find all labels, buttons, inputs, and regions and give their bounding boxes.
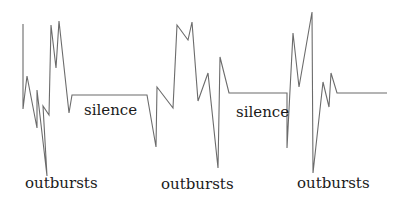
waveform-line [23, 12, 387, 176]
silence-label-1: silence [84, 101, 137, 119]
waveform-diagram: silence silence outbursts outbursts outb… [0, 0, 409, 198]
outbursts-label-2: outbursts [161, 175, 234, 193]
outbursts-label-1: outbursts [25, 174, 98, 192]
outbursts-label-3: outbursts [297, 174, 370, 192]
silence-label-2: silence [236, 103, 289, 121]
